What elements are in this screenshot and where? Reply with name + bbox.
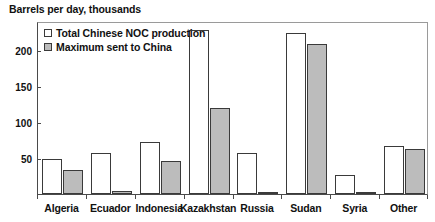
y-axis-tick-mark [37,87,41,88]
x-axis-tick-mark [37,195,38,199]
x-axis-tick-mark [379,195,380,199]
legend-label: Total Chinese NOC production [56,27,205,39]
y-axis-tick-mark [37,123,41,124]
x-axis-category-label: Syria [342,202,367,214]
bar-ecuador-series1 [112,191,132,194]
chart-title: Barrels per day, thousands [9,3,141,15]
x-axis-tick-mark [135,195,136,199]
bar-syria-series1 [356,192,376,194]
bar-kazakhstan-series0 [189,30,209,194]
bar-kazakhstan-series1 [210,108,230,195]
legend-swatch-icon [44,29,52,37]
y-axis-tick-label: 150 [15,81,32,92]
bar-algeria-series0 [42,159,62,194]
bar-indonesia-series0 [140,142,160,194]
legend-item: Total Chinese NOC production [44,26,205,39]
legend-label: Maximum sent to China [56,41,172,53]
bar-chart: Barrels per day, thousands 50100150200 T… [0,0,435,222]
bar-russia-series0 [237,153,257,194]
bar-other-series0 [384,146,404,194]
x-axis-category-label: Ecuador [90,202,131,214]
bar-other-series1 [405,149,425,194]
bar-syria-series0 [335,175,355,194]
x-axis-category-label: Other [390,202,417,214]
y-axis: 50100150200 [0,22,32,195]
x-axis-tick-mark [86,195,87,199]
x-axis-tick-mark [427,195,428,199]
y-axis-tick-label: 100 [15,117,32,128]
x-axis-category-label: Indonesia [136,202,183,214]
y-axis-tick-mark [37,159,41,160]
x-axis-category-label: Sudan [290,202,321,214]
y-axis-tick-label: 200 [15,45,32,56]
bar-russia-series1 [258,192,278,194]
bar-indonesia-series1 [161,161,181,194]
x-axis-category-label: Kazakhstan [180,202,236,214]
x-axis-tick-mark [184,195,185,199]
legend-item: Maximum sent to China [44,40,205,53]
legend-swatch-icon [44,43,52,51]
x-axis-category-label: Russia [240,202,273,214]
bar-sudan-series0 [286,33,306,194]
bar-ecuador-series0 [91,153,111,194]
x-axis-category-label: Algeria [44,202,78,214]
bar-sudan-series1 [307,44,327,194]
x-axis-tick-mark [233,195,234,199]
bar-algeria-series1 [63,170,83,194]
chart-legend: Total Chinese NOC productionMaximum sent… [44,26,205,53]
x-axis-tick-mark [330,195,331,199]
x-axis-tick-mark [281,195,282,199]
y-axis-tick-mark [37,51,41,52]
y-axis-tick-label: 50 [21,153,32,164]
